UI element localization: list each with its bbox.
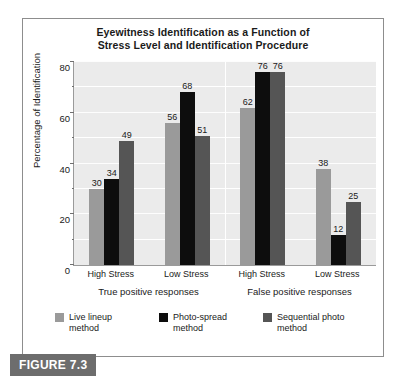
bar: 56	[165, 123, 180, 265]
x-tick-label: High Stress	[87, 269, 134, 279]
chart-title: Eyewitness Identification as a Function …	[24, 26, 382, 52]
bar: 51	[195, 136, 210, 265]
legend-label: Sequential photo method	[277, 312, 349, 334]
bar-value-label: 38	[318, 158, 328, 168]
group-divider	[225, 62, 226, 265]
y-tick-mark	[70, 163, 74, 164]
y-tick-mark-minor	[72, 86, 75, 87]
bar-value-label: 25	[348, 191, 358, 201]
legend-label: Live lineup method	[69, 312, 141, 334]
y-tick-mark-minor	[72, 239, 75, 240]
bar-value-label: 49	[122, 130, 132, 140]
y-tick-mark	[70, 213, 74, 214]
chart-legend: Live lineup methodPhoto-spread methodSeq…	[55, 312, 349, 334]
bar-value-label: 76	[258, 61, 268, 71]
plot-area: 020406080303449566851627676381225	[73, 62, 376, 266]
bar: 12	[331, 235, 346, 265]
bar: 76	[270, 72, 285, 265]
x-tick-label: Low Stress	[315, 269, 360, 279]
x-tick-label: Low Stress	[164, 269, 209, 279]
bar: 30	[89, 189, 104, 265]
figure-caption-banner: FIGURE 7.3	[10, 354, 96, 376]
bar-value-label: 56	[167, 112, 177, 122]
bar: 34	[104, 179, 119, 265]
bar-value-label: 12	[333, 224, 343, 234]
legend-item: Live lineup method	[55, 312, 141, 334]
bar: 76	[255, 72, 270, 265]
bar-value-label: 51	[197, 125, 207, 135]
chart-title-line-1: Eyewitness Identification as a Function …	[24, 26, 382, 39]
x-group-label: True positive responses	[98, 286, 199, 297]
legend-item: Photo-spread method	[159, 312, 245, 334]
bar: 49	[119, 141, 134, 265]
x-group-label: False positive responses	[247, 286, 352, 297]
legend-swatch	[55, 313, 64, 322]
chart-title-line-2: Stress Level and Identification Procedur…	[24, 39, 382, 52]
legend-swatch	[263, 313, 272, 322]
legend-label: Photo-spread method	[173, 312, 245, 334]
y-tick-mark	[70, 112, 74, 113]
bar: 25	[346, 202, 361, 265]
y-axis-title: Percentage of Identification	[31, 11, 42, 211]
bar-value-label: 62	[243, 97, 253, 107]
x-tick-label: High Stress	[238, 269, 285, 279]
bar-value-label: 68	[182, 81, 192, 91]
legend-swatch	[159, 313, 168, 322]
bar-value-label: 34	[107, 168, 117, 178]
bar-value-label: 30	[92, 178, 102, 188]
bar-value-label: 76	[273, 61, 283, 71]
bar: 62	[240, 108, 255, 265]
y-tick-mark	[70, 61, 74, 62]
y-tick-mark-minor	[72, 137, 75, 138]
y-tick-mark	[70, 264, 74, 265]
bar: 38	[316, 169, 331, 265]
bar: 68	[180, 92, 195, 265]
y-tick-mark-minor	[72, 188, 75, 189]
legend-item: Sequential photo method	[263, 312, 349, 334]
